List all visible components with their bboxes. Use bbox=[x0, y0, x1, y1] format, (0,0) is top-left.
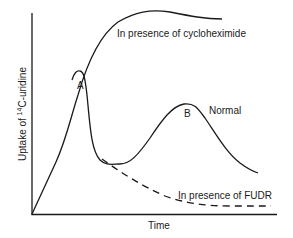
y-axis-label-superscript: 14 bbox=[16, 107, 23, 115]
label-cycloheximide: In presence of cycloheximide bbox=[117, 28, 246, 39]
label-fudr: In presence of FUDR bbox=[178, 190, 272, 201]
y-axis-label-prefix: Uptake of bbox=[17, 115, 28, 161]
y-axis-label-suffix: C-uridine bbox=[17, 67, 28, 108]
uridine-uptake-chart: In presence of cycloheximide A B Normal … bbox=[0, 0, 293, 238]
label-peak-a: A bbox=[77, 80, 84, 91]
curve-normal bbox=[72, 71, 258, 173]
label-normal: Normal bbox=[209, 105, 241, 116]
y-axis-label: Uptake of 14C-uridine bbox=[16, 67, 28, 161]
x-axis-label: Time bbox=[148, 220, 170, 231]
label-peak-b: B bbox=[184, 108, 191, 119]
curve-cycloheximide bbox=[32, 11, 222, 214]
